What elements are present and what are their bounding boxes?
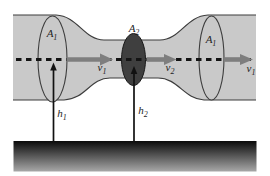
- label-area-left: A1: [47, 28, 58, 39]
- label-height-throat: h2: [138, 105, 148, 116]
- label-velocity-after: v1: [247, 63, 256, 74]
- label-velocity-throat: v2: [166, 62, 175, 73]
- label-area-right: A1: [206, 34, 217, 45]
- label-area-throat: A2: [129, 23, 140, 34]
- ground: [14, 141, 257, 172]
- label-velocity-before: v1: [98, 62, 107, 73]
- label-height-left: h1: [57, 108, 67, 119]
- venturi-tube-diagram: A1 A2 A1 v1 v2 v1 h1 h2: [0, 0, 270, 176]
